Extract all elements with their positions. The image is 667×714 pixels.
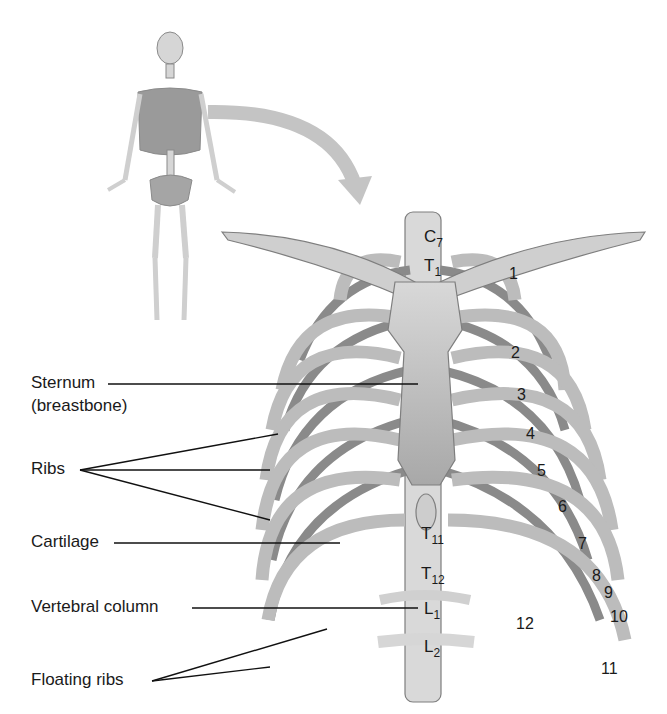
label-sternum: Sternum	[31, 373, 95, 393]
rib-number-12: 12	[516, 616, 534, 632]
rib-number-10: 10	[610, 609, 628, 625]
thoracic-cage-diagram: Sternum (breastbone) Ribs Cartilage Vert…	[0, 0, 667, 714]
vertebra-l2: L2	[424, 638, 440, 662]
rib-number-3: 3	[517, 387, 526, 403]
rib-number-7: 7	[578, 536, 587, 552]
vertebra-l1: L1	[424, 600, 440, 624]
rib-number-1: 1	[509, 266, 518, 282]
vertebra-t11: T11	[421, 525, 444, 549]
label-sternum-breastbone: (breastbone)	[31, 396, 127, 416]
vertebra-c7: C7	[424, 228, 443, 252]
rib-number-11: 11	[601, 661, 618, 677]
label-vertebral-column: Vertebral column	[31, 597, 159, 617]
skeleton-inset-icon	[108, 32, 235, 320]
label-ribs: Ribs	[31, 459, 65, 479]
rib-number-2: 2	[511, 345, 520, 361]
label-cartilage: Cartilage	[31, 532, 99, 552]
rib-number-4: 4	[526, 426, 535, 442]
vertebra-t1: T1	[424, 257, 441, 281]
vertebra-t12: T12	[421, 565, 445, 589]
rib-number-8: 8	[592, 568, 601, 584]
rib-number-5: 5	[537, 463, 546, 479]
label-floating-ribs: Floating ribs	[31, 670, 124, 690]
rib-cage	[222, 212, 645, 702]
arrow-icon	[208, 112, 355, 185]
rib-number-9: 9	[604, 585, 613, 601]
rib-number-6: 6	[558, 499, 567, 515]
